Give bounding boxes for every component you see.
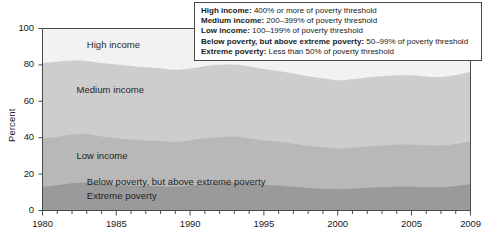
x-tick-label: 2000 — [318, 218, 358, 229]
stacked-area-chart: Percent 020406080100 1980198519901995200… — [0, 0, 487, 240]
band-label: High income — [87, 39, 140, 50]
legend-item: High income: 400% or more of poverty thr… — [201, 6, 476, 16]
y-tick-label: 60 — [8, 95, 34, 106]
y-tick-label: 40 — [8, 131, 34, 142]
legend-box: High income: 400% or more of poverty thr… — [194, 2, 482, 61]
legend-item-definition: 50–99% of poverty threshold — [364, 37, 468, 46]
legend-item-term: Medium income: — [201, 16, 264, 25]
legend-item: Below poverty, but above extreme poverty… — [201, 37, 476, 47]
band-label: Low income — [76, 150, 127, 161]
x-tick-label: 2005 — [391, 218, 431, 229]
y-tick-label: 0 — [8, 204, 34, 215]
x-tick-label: 2009 — [451, 218, 487, 229]
x-tick-label: 1980 — [23, 218, 63, 229]
legend-item: Low income: 100–199% of poverty threshol… — [201, 26, 476, 36]
band-label: Extreme poverty — [87, 190, 157, 201]
legend-item-term: Below poverty, but above extreme poverty… — [201, 37, 364, 46]
y-tick-label: 20 — [8, 168, 34, 179]
x-tick-label: 1985 — [96, 218, 136, 229]
legend-item-term: High income: — [201, 6, 252, 15]
legend-item: Extreme poverty: Less than 50% of povert… — [201, 47, 476, 57]
x-tick-label: 1995 — [244, 218, 284, 229]
legend-item-term: Low income: — [201, 26, 250, 35]
legend-item-definition: 200–399% of poverty threshold — [264, 16, 377, 25]
band-label: Medium income — [76, 84, 144, 95]
legend-item-definition: Less than 50% of poverty threshold — [266, 47, 394, 56]
y-tick-label: 80 — [8, 58, 34, 69]
y-tick-label: 100 — [8, 22, 34, 33]
legend-item-definition: 400% or more of poverty threshold — [252, 6, 377, 15]
legend-item-definition: 100–199% of poverty threshold — [250, 26, 363, 35]
band-label: Below poverty, but above extreme poverty — [87, 176, 266, 187]
x-tick-label: 1990 — [170, 218, 210, 229]
legend-item-term: Extreme poverty: — [201, 47, 266, 56]
legend-item: Medium income: 200–399% of poverty thres… — [201, 16, 476, 26]
